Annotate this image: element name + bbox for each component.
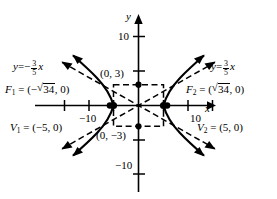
point-focus-f2 [164, 102, 170, 108]
vertex-left-subscript: 1 [17, 126, 21, 135]
asymptote-left-label: y=−35x [13, 60, 43, 77]
focus-right-rest: , 0) [230, 83, 245, 95]
focus-left-open-paren: (− [27, 83, 37, 95]
asymptote-arrow-lower-left [62, 141, 73, 149]
focus-left-subscript: 1 [12, 88, 16, 97]
y-axis-label: y [126, 11, 131, 22]
vertex-left-label: V1 = (−5, 0) [10, 122, 62, 135]
focus-right-subscript: 2 [193, 88, 197, 97]
covertex-top-label: (0, 3) [100, 68, 124, 79]
y-tick-label-positive-10: 10 [118, 31, 129, 42]
asymptote-right-label: y=35x [211, 60, 235, 77]
focus-left-label: F1 = (−√34, 0) [5, 83, 69, 97]
x-tick-label-negative-10: −10 [79, 113, 96, 124]
asymptote-left-variable: x [38, 60, 43, 72]
covertex-bottom-label: (0, −3) [96, 130, 126, 141]
asymptote-left-denominator: 5 [31, 68, 37, 77]
asymptote-right-denominator: 5 [223, 68, 229, 77]
asymptote-arrow-lower-right [205, 141, 216, 149]
radical-sign-icon: √ [37, 82, 43, 93]
point-focus-f1 [107, 102, 113, 108]
point-covertex-bottom [135, 123, 141, 129]
asymptote-left-sign: − [24, 60, 30, 72]
focus-right-radicand: 34 [218, 83, 230, 96]
point-covertex-top [135, 82, 141, 88]
vertex-left-value: (−5, 0) [32, 121, 62, 133]
x-tick-label-positive-10: 10 [190, 113, 201, 124]
focus-left-equals: = [18, 83, 24, 95]
y-tick-label-negative-10: −10 [115, 160, 132, 171]
radical-sign-icon: √ [212, 82, 218, 93]
focus-right-equals: = [199, 83, 205, 95]
focus-right-radical: √34 [212, 83, 230, 96]
focus-left-radical: √34 [37, 83, 55, 96]
x-axis-label: x [205, 103, 210, 114]
focus-right-label: F2 = (√34, 0) [186, 83, 244, 97]
left-branch-upper [74, 56, 114, 106]
asymptote-right-numerator: 3 [223, 60, 229, 68]
asymptote-right-equals: = [216, 60, 222, 72]
focus-left-rest: , 0) [55, 83, 70, 95]
asymptote-right-variable: x [230, 60, 235, 72]
asymptote-arrow-upper-left [62, 62, 73, 70]
focus-right-symbol: F [186, 83, 193, 95]
hyperbola-figure: y=−35x y=35x F1 = (−√34, 0) F2 = (√34, 0… [0, 0, 277, 199]
y-axis-arrowhead [134, 14, 142, 24]
vertex-right-subscript: 2 [204, 126, 208, 135]
right-branch-upper [164, 56, 204, 106]
vertex-left-equals: = [23, 121, 29, 133]
plot-canvas [0, 0, 277, 199]
asymptote-left-numerator: 3 [31, 60, 37, 68]
asymptote-left-fraction: 35 [31, 60, 37, 77]
vertex-right-value: (5, 0) [219, 121, 243, 133]
focus-left-symbol: F [5, 83, 12, 95]
vertex-right-equals: = [210, 121, 216, 133]
focus-left-radicand: 34 [43, 83, 55, 96]
vertex-right-label: V2 = (5, 0) [197, 122, 243, 135]
asymptote-right-fraction: 35 [223, 60, 229, 77]
vertex-left-symbol: V [10, 121, 17, 133]
